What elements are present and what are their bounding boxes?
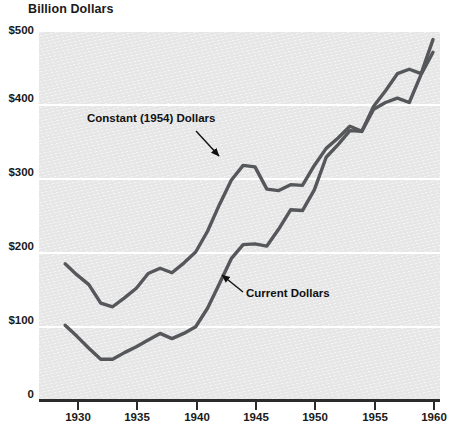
x-axis-label-1935: 1935 (124, 411, 150, 423)
line-constant-dollars (65, 52, 433, 307)
plot-area (39, 30, 440, 400)
x-axis-label-1950: 1950 (302, 411, 328, 423)
line-current-dollars (65, 40, 433, 360)
series-lines (39, 30, 440, 400)
x-tick-1955 (374, 402, 376, 410)
y-axis-label-300: $300 (0, 166, 34, 178)
y-axis-label-500: $500 (0, 24, 34, 36)
x-tick-1935 (136, 402, 138, 410)
x-axis-label-1955: 1955 (362, 411, 388, 423)
y-axis-label-0: 0 (0, 388, 34, 400)
x-axis-label-1930: 1930 (65, 411, 91, 423)
x-tick-1940 (196, 402, 198, 410)
x-axis-label-1940: 1940 (184, 411, 210, 423)
chart-container: Billion Dollars $500 $400 $300 $200 $100… (0, 0, 462, 430)
y-axis-label-400: $400 (0, 92, 34, 104)
x-tick-1960 (433, 402, 435, 410)
annotation-constant-dollars: Constant (1954) Dollars (87, 112, 215, 124)
x-tick-1930 (77, 402, 79, 410)
annotation-current-dollars: Current Dollars (246, 287, 330, 299)
y-axis-label-200: $200 (0, 240, 34, 252)
x-axis-line (39, 399, 440, 402)
x-axis-label-1945: 1945 (243, 411, 269, 423)
x-tick-1950 (314, 402, 316, 410)
y-axis-label-100: $100 (0, 314, 34, 326)
x-tick-1945 (255, 402, 257, 410)
chart-title: Billion Dollars (28, 2, 114, 16)
x-axis-label-1960: 1960 (421, 411, 447, 423)
